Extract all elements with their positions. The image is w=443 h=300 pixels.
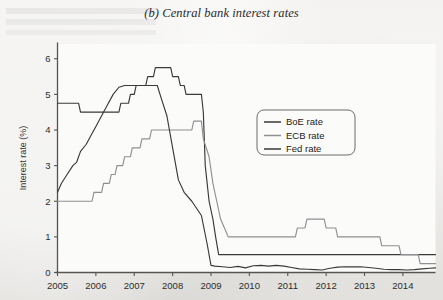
y-tick-label: 1	[45, 231, 50, 242]
y-tick-label: 6	[45, 53, 50, 64]
y-tick-label: 2	[45, 196, 50, 207]
figure-container: (b) Central bank interest rates 01234562…	[0, 0, 443, 300]
y-tick-label: 3	[45, 160, 50, 171]
x-tick-label: 2013	[354, 280, 375, 291]
legend-label: ECB rate	[286, 130, 325, 141]
y-axis-label: Interest rate (%)	[18, 126, 28, 191]
legend-label: Fed rate	[286, 143, 321, 154]
x-tick-label: 2006	[85, 280, 106, 291]
chart-legend: BoE rateECB rateFed rate	[257, 110, 355, 155]
plot-background	[58, 44, 436, 273]
x-tick-label: 2005	[47, 280, 68, 291]
y-tick-label: 0	[45, 267, 50, 278]
interest-rate-line-chart: 0123456200520062007200820092010201120122…	[0, 0, 443, 300]
x-tick-label: 2014	[392, 280, 413, 291]
x-tick-label: 2010	[239, 280, 260, 291]
x-tick-label: 2011	[278, 280, 298, 291]
x-tick-label: 2012	[316, 280, 337, 291]
y-tick-label: 4	[45, 124, 50, 135]
y-tick-label: 5	[45, 89, 50, 100]
legend-label: BoE rate	[286, 116, 323, 127]
x-tick-label: 2008	[162, 280, 183, 291]
x-tick-label: 2009	[200, 280, 221, 291]
x-tick-label: 2007	[124, 280, 145, 291]
